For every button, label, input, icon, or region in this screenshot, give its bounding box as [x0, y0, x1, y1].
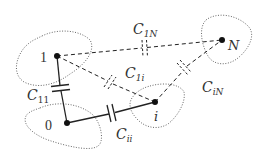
node-0-label: 0 — [45, 118, 52, 133]
label-C1i: C1i — [125, 65, 144, 83]
node-N-dot — [219, 37, 225, 43]
node-i-label: i — [154, 109, 158, 124]
capacitor-C1N-plate-a — [142, 40, 143, 57]
wire-C1N-to-N — [147, 40, 222, 48]
wire-1-to-C1i — [57, 56, 108, 81]
wire-1-to-C11 — [57, 56, 60, 86]
label-C11: C11 — [27, 87, 49, 105]
wire-i-to-CiN — [155, 71, 183, 102]
wire-Cii-to-i — [115, 102, 155, 113]
label-C1N: C1N — [133, 21, 158, 39]
node-0-dot — [64, 120, 70, 126]
node-i-dot — [152, 99, 158, 105]
conductor-0-outline — [25, 104, 101, 149]
conductor-1-outline — [16, 31, 91, 85]
node-1-label: 1 — [40, 50, 47, 65]
wire-0-to-Cii — [67, 114, 109, 123]
capacitance-network-diagram: 1 N 0 i C11 Cii C1i C1N CiN — [0, 0, 269, 153]
capacitor-CiN-plate-b — [180, 60, 191, 72]
node-1-dot — [54, 53, 60, 59]
capacitor-C1N-plate-b — [147, 40, 148, 57]
wire-C11-to-0 — [61, 91, 67, 123]
label-CiN: CiN — [202, 79, 225, 97]
capacitor-Cii-plate-a — [107, 105, 111, 122]
conductor-N-outline — [202, 15, 252, 64]
wire-1-to-C1N — [57, 48, 142, 56]
wire-CiN-to-N — [187, 40, 222, 66]
node-N-label: N — [227, 38, 240, 53]
label-Cii: Cii — [116, 126, 133, 144]
capacitor-CiN-plate-a — [177, 63, 188, 75]
